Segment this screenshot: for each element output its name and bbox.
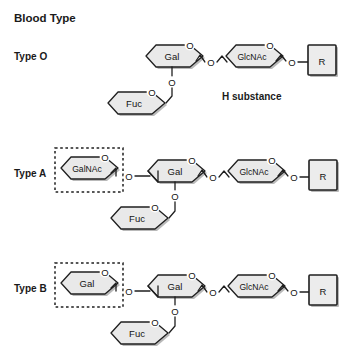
r-group-label: R: [320, 286, 327, 297]
ring-oxygen-label-gal-b-term: O: [101, 267, 108, 278]
ring-oxygen-label-glcnac-o: O: [266, 40, 273, 51]
linker-oxygen-label-1: O: [207, 57, 214, 68]
ring-oxygen-label-gal-o: O: [186, 40, 193, 51]
residue-label-fuc: Fuc: [129, 328, 145, 339]
bond-linker-o-to-glcnac-a: [219, 171, 229, 177]
residue-galnac-type-a: O GalNAc: [61, 152, 120, 181]
residue-fuc-type-b: O Fuc: [111, 317, 170, 346]
residue-label-fuc: Fuc: [126, 98, 142, 109]
residue-label-gal: Gal: [168, 281, 183, 292]
row-label-type-a: Type A: [14, 168, 46, 179]
branch-oxygen-label-o: O: [168, 77, 175, 88]
residue-fuc-type-a: O Fuc: [111, 202, 170, 231]
r-group-box-type-b: R: [309, 275, 339, 307]
ring-oxygen-label-glcnac-a: O: [268, 155, 275, 166]
bond-linker-o-to-glcnac: [217, 56, 227, 62]
linker-oxygen-label-2: O: [288, 57, 295, 68]
bond-o-to-fuc-ring: [166, 88, 172, 103]
ring-oxygen-label-glcnac-b: O: [268, 270, 275, 281]
residue-label-glcnac: GlcNAc: [237, 52, 267, 62]
branch-oxygen-label-b: O: [171, 306, 178, 317]
residue-fuc-type-o: O Fuc: [108, 87, 167, 116]
ring-oxygen-label-fuc-b: O: [151, 317, 158, 328]
bond-linker-o-to-glcnac-b: [219, 286, 229, 292]
r-group-box-type-a: R: [309, 160, 339, 192]
row-label-type-o: Type O: [14, 51, 47, 62]
ring-oxygen-label-gal-b: O: [188, 270, 195, 281]
bond-o-to-fuc-ring-a: [169, 202, 175, 218]
diagram-canvas: Blood Type Type O Type A Type B O Gal O: [0, 0, 345, 359]
residue-label-glcnac: GlcNAc: [239, 282, 269, 292]
structure-type-b: O Gal O O Gal O: [55, 263, 339, 346]
residue-glcnac-type-o: O GlcNAc: [226, 40, 285, 69]
ring-oxygen-label-fuc-o: O: [148, 87, 155, 98]
h-substance-annotation: H substance: [222, 91, 282, 102]
structure-type-o: O Gal O O GlcNAc O: [108, 40, 338, 116]
residue-gal-type-o: O Gal: [146, 40, 205, 69]
residue-gal-terminal-type-b: O Gal: [61, 267, 120, 296]
residue-gal-central-type-b: O Gal: [148, 270, 207, 299]
r-group-label: R: [320, 171, 327, 182]
r-group-box-type-o: R: [308, 45, 338, 77]
linker-oxygen-label-b3: O: [290, 287, 297, 298]
residue-label-fuc: Fuc: [129, 213, 145, 224]
bond-o-to-fuc-ring-b: [169, 317, 175, 333]
linker-oxygen-label-a3: O: [290, 172, 297, 183]
ring-oxygen-label-gal-a: O: [188, 155, 195, 166]
ring-oxygen-label-galnac-a: O: [101, 152, 108, 163]
residue-glcnac-type-a: O GlcNAc: [228, 155, 287, 184]
branch-oxygen-label-a: O: [171, 191, 178, 202]
residue-label-gal: Gal: [168, 166, 183, 177]
residue-label-gal-terminal: Gal: [80, 278, 95, 289]
figure-title: Blood Type: [14, 12, 76, 24]
residue-glcnac-type-b: O GlcNAc: [228, 270, 287, 299]
row-label-type-b: Type B: [14, 283, 47, 294]
linker-oxygen-label-a2: O: [209, 172, 216, 183]
r-group-label: R: [319, 56, 326, 67]
residue-label-glcnac: GlcNAc: [239, 167, 269, 177]
structure-type-a: O GalNAc O O Gal O: [55, 148, 339, 231]
blood-type-antigen-diagram: Blood Type Type O Type A Type B O Gal O: [0, 0, 345, 359]
residue-label-galnac: GalNAc: [72, 164, 102, 174]
linker-oxygen-label-a1: O: [125, 171, 132, 182]
ring-oxygen-label-fuc-a: O: [151, 202, 158, 213]
residue-gal-central-type-a: O Gal: [148, 155, 207, 184]
residue-label-gal: Gal: [165, 51, 180, 62]
linker-oxygen-label-b1: O: [125, 286, 132, 297]
linker-oxygen-label-b2: O: [209, 287, 216, 298]
